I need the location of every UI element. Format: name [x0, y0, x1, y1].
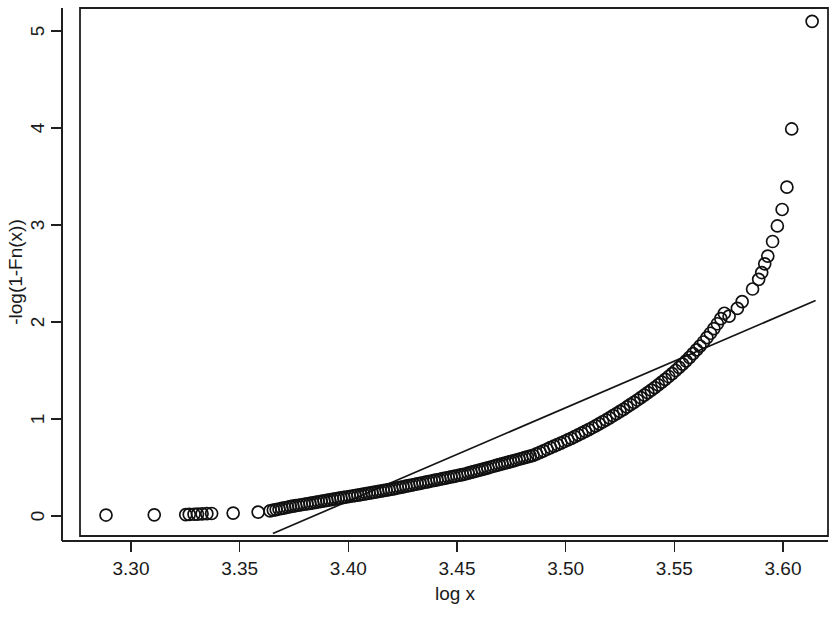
plot-background [0, 0, 830, 621]
x-tick-label: 3.40 [330, 558, 367, 579]
x-tick-label: 3.50 [547, 558, 584, 579]
y-tick-label: 3 [27, 220, 48, 231]
x-tick-label: 3.60 [765, 558, 802, 579]
plot-canvas: 3.303.353.403.453.503.553.60 log x 01234… [0, 0, 830, 621]
y-tick-label: 2 [27, 317, 48, 328]
y-tick-label: 0 [27, 511, 48, 522]
x-tick-label: 3.30 [113, 558, 150, 579]
x-axis-title: log x [435, 583, 476, 604]
y-tick-label: 5 [27, 26, 48, 37]
y-tick-label: 1 [27, 414, 48, 425]
y-tick-label: 4 [27, 122, 48, 133]
y-axis-title: -log(1-Fn(x)) [5, 219, 26, 325]
exceedance-plot-figure: 3.303.353.403.453.503.553.60 log x 01234… [0, 0, 830, 621]
x-tick-label: 3.35 [221, 558, 258, 579]
x-tick-label: 3.55 [656, 558, 693, 579]
x-tick-label: 3.45 [439, 558, 476, 579]
